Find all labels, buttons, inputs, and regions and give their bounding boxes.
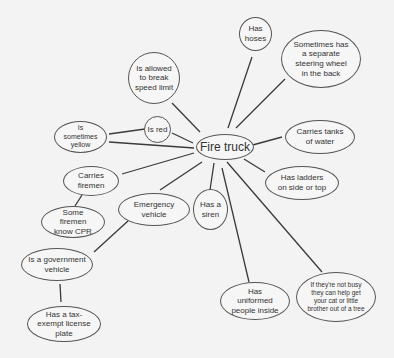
node-label: Fire truck bbox=[200, 140, 250, 154]
node-is-red: Is red bbox=[144, 116, 171, 143]
edge-firemen bbox=[122, 153, 194, 174]
node-uniformed: Has uniformed people inside bbox=[220, 282, 290, 320]
node-speed-limit: Is allowed to break speed limit bbox=[128, 52, 180, 104]
edge-emergency bbox=[160, 162, 202, 190]
node-label: Is a government vehicle bbox=[28, 255, 86, 274]
node-label: Emergency vehicle bbox=[127, 200, 181, 219]
node-label: Has a siren bbox=[198, 200, 223, 219]
node-ladders: Has ladders on side or top bbox=[265, 166, 339, 200]
edge-uniformed bbox=[222, 168, 249, 282]
node-label: Some firemen know CPR bbox=[50, 208, 96, 237]
node-label: If they're not busy they can help get yo… bbox=[306, 281, 366, 312]
edge-gov-tax bbox=[60, 284, 61, 302]
node-label: Carries firemen bbox=[74, 171, 108, 190]
node-government: Is a government vehicle bbox=[21, 248, 93, 281]
node-fire-truck: Fire truck bbox=[196, 134, 254, 160]
edge-yellow bbox=[109, 142, 194, 148]
node-label: Is red bbox=[147, 125, 167, 135]
node-siren: Has a siren bbox=[193, 189, 228, 230]
edge-tanks bbox=[249, 137, 282, 146]
edge-red bbox=[172, 133, 193, 143]
node-cpr: Some firemen know CPR bbox=[41, 206, 105, 238]
node-has-hoses: Has hoses bbox=[239, 17, 272, 51]
concept-map: Fire truck Has hoses Sometimes has a sep… bbox=[0, 0, 394, 358]
edge-red-yellow bbox=[109, 129, 145, 134]
node-carries-firemen: Carries firemen bbox=[63, 166, 119, 196]
node-emergency: Emergency vehicle bbox=[118, 193, 190, 226]
node-label: Is allowed to break speed limit bbox=[133, 64, 175, 93]
edge-siren bbox=[210, 163, 214, 190]
node-separate-steering: Sometimes has a separate steering wheel … bbox=[281, 30, 361, 88]
node-help-cat: If they're not busy they can help get yo… bbox=[296, 272, 376, 322]
node-label: Has ladders on side or top bbox=[276, 173, 328, 192]
edge-ladders bbox=[244, 159, 265, 172]
edge-firemen-cpr bbox=[75, 195, 82, 206]
node-label: Has a tax-exempt license plate bbox=[34, 310, 94, 339]
node-label: Has hoses bbox=[242, 24, 269, 43]
edge-speedlimit bbox=[172, 103, 200, 132]
node-tanks-water: Carries tanks of water bbox=[285, 120, 355, 154]
node-label: Carries tanks of water bbox=[294, 127, 346, 146]
node-label: Sometimes has a separate steering wheel … bbox=[292, 40, 350, 78]
node-label: Is sometimes yellow bbox=[61, 124, 100, 149]
node-sometimes-yellow: Is sometimes yellow bbox=[54, 121, 107, 153]
node-tax-exempt: Has a tax-exempt license plate bbox=[27, 306, 101, 342]
edge-steering bbox=[236, 79, 285, 128]
node-label: Has uniformed people inside bbox=[231, 287, 279, 316]
edge-hoses bbox=[228, 57, 252, 128]
